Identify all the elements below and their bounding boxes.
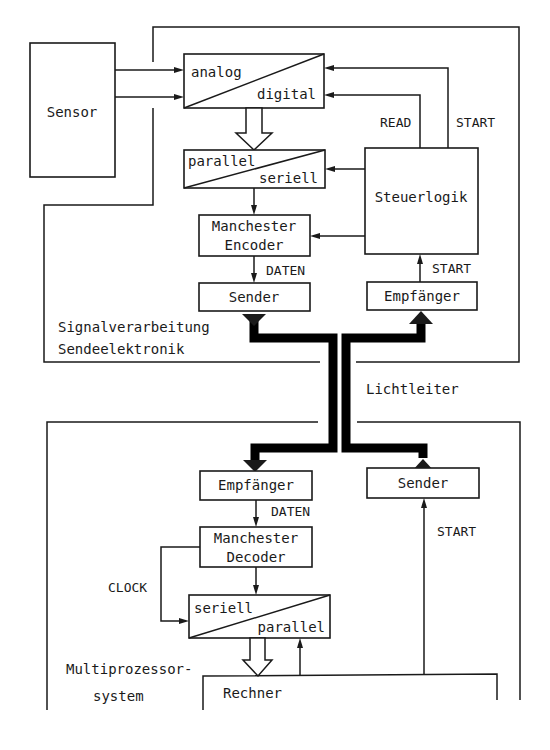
adc-block: analog digital bbox=[184, 54, 324, 108]
block-diagram: Sensor analog digital parallel seriell M… bbox=[0, 0, 550, 750]
encoder-label-line1: Manchester bbox=[212, 218, 296, 234]
manchester-decoder-block: Manchester Decoder bbox=[200, 527, 312, 567]
receiver-top-label: Empfänger bbox=[384, 288, 460, 304]
signal-read: READ bbox=[380, 115, 411, 130]
signal-daten-top: DATEN bbox=[266, 263, 305, 278]
fiber-label: Lichtleiter bbox=[366, 381, 459, 397]
serial-to-parallel-block: seriell parallel bbox=[189, 595, 330, 638]
receiver-section-label-2: system bbox=[93, 688, 144, 704]
decoder-label-line1: Manchester bbox=[214, 530, 298, 546]
encoder-label-line2: Encoder bbox=[224, 237, 283, 253]
transmitter-receiver-block: Empfänger bbox=[367, 282, 477, 310]
receiver-receiver-block: Empfänger bbox=[200, 471, 312, 500]
parallel-bus-arrow-bottom bbox=[243, 638, 272, 676]
sensor-label: Sensor bbox=[47, 104, 98, 120]
sender-top-label: Sender bbox=[229, 289, 280, 305]
computer-block: Rechner bbox=[203, 674, 497, 710]
transmitter-sender-block: Sender bbox=[199, 283, 310, 311]
computer-label: Rechner bbox=[223, 685, 282, 701]
receiver-section-label-1: Multiprozessor- bbox=[66, 661, 192, 677]
signal-start-top: START bbox=[456, 115, 495, 130]
control-logic-block: Steuerlogik bbox=[365, 148, 478, 254]
parallel-bus-arrow bbox=[236, 108, 272, 150]
s2p-label-parallel: parallel bbox=[258, 619, 325, 635]
p2s-label-parallel: parallel bbox=[188, 153, 255, 169]
decoder-label-line2: Decoder bbox=[226, 549, 285, 565]
signal-daten-bottom: DATEN bbox=[271, 504, 310, 519]
signal-start-bottom: START bbox=[437, 524, 476, 539]
s2p-label-seriell: seriell bbox=[194, 600, 253, 616]
control-logic-label: Steuerlogik bbox=[375, 189, 468, 205]
signal-start-receiver: START bbox=[432, 261, 471, 276]
transmitter-section-label-2: Sendeelektronik bbox=[58, 341, 185, 357]
receiver-sender-block: Sender bbox=[367, 468, 479, 498]
sensor-to-adc-arrows bbox=[115, 67, 184, 100]
parallel-to-serial-block: parallel seriell bbox=[184, 150, 325, 188]
sensor-block: Sensor bbox=[30, 43, 115, 177]
manchester-encoder-block: Manchester Encoder bbox=[199, 215, 310, 256]
p2s-label-seriell: seriell bbox=[259, 170, 318, 186]
signal-clock: CLOCK bbox=[108, 580, 147, 595]
transmitter-section-label-1: Signalverarbeitung bbox=[58, 319, 210, 335]
receiver-bottom-label: Empfänger bbox=[218, 477, 294, 493]
adc-label-digital: digital bbox=[257, 86, 316, 102]
adc-label-analog: analog bbox=[191, 64, 242, 80]
sender-bottom-label: Sender bbox=[398, 475, 449, 491]
